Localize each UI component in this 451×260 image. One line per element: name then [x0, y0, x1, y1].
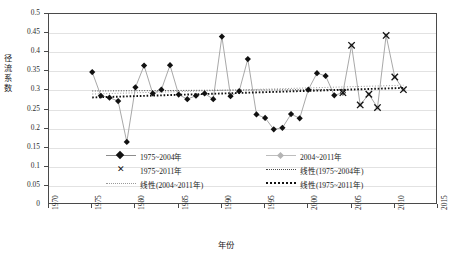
x-axis-title: 年份: [0, 238, 451, 250]
data-point-marker: [132, 84, 138, 90]
x-tick-label: 2005: [354, 195, 363, 210]
legend-item[interactable]: ✕ 1975~2011年: [106, 163, 266, 177]
x-tick-mark: [134, 204, 135, 208]
legend-label: 线性(1975~2011年): [300, 179, 363, 190]
x-tick-mark: [91, 204, 92, 208]
data-point-marker: [124, 139, 130, 145]
x-tick-label: 2010: [397, 195, 406, 210]
trend-line: [92, 85, 403, 94]
y-tick-label: 0.1: [6, 162, 40, 170]
x-tick-label: 1985: [181, 195, 190, 210]
x-tick-label: 2000: [310, 195, 319, 210]
data-point-marker: [202, 90, 208, 96]
data-point-marker: [245, 56, 251, 62]
data-point-marker: [176, 92, 182, 98]
chart-legend: 1975~2004年 2004~2011年 ✕ 1975~2011年 线性(19…: [106, 149, 406, 191]
legend-item[interactable]: 1975~2004年: [106, 149, 266, 163]
legend-key-gray-diamond-line: [266, 151, 296, 161]
legend-label: 1975~2004年: [140, 151, 182, 162]
y-tick-label: 0.3: [6, 85, 40, 93]
y-tick-label: 0.4: [6, 47, 40, 55]
data-point-marker: [106, 95, 112, 101]
y-tick-label: 0.25: [6, 105, 40, 113]
trend-line: [92, 88, 403, 98]
legend-label: 线性(1975~2004年): [300, 165, 364, 176]
data-point-marker: [305, 87, 311, 93]
x-tick-mark: [307, 204, 308, 208]
y-tick-label: 0.15: [6, 143, 40, 151]
data-point-marker: [167, 62, 173, 68]
x-tick-label: 1975: [94, 195, 103, 210]
x-tick-mark: [178, 204, 179, 208]
y-tick-label: 0.35: [6, 66, 40, 74]
legend-key-dotted-thin: [266, 165, 296, 175]
y-tick-label: 0.45: [6, 28, 40, 36]
chart-figure: 径 流 系 数 00.050.10.150.20.250.30.350.40.4…: [0, 0, 451, 260]
data-point-marker: [323, 73, 329, 79]
legend-item[interactable]: 线性(1975~2004年): [266, 163, 406, 177]
x-tick-label: 1980: [137, 195, 146, 210]
data-point-marker: [89, 69, 95, 75]
plot-area: 1975~2004年 2004~2011年 ✕ 1975~2011年 线性(19…: [48, 13, 437, 204]
data-point-marker: [288, 111, 294, 117]
data-point-marker: [253, 111, 259, 117]
legend-key-x-marker: ✕: [106, 165, 136, 175]
legend-label: 2004~2011年: [300, 151, 342, 162]
x-tick-label: 2015: [440, 195, 449, 210]
x-tick-label: 1970: [51, 195, 60, 210]
data-point-marker: [158, 87, 164, 93]
x-tick-label: 1995: [267, 195, 276, 210]
x-tick-label: 1990: [224, 195, 233, 210]
data-point-marker: [314, 70, 320, 76]
y-tick-label: 0.2: [6, 124, 40, 132]
x-tick-mark: [48, 204, 49, 208]
y-tick-label: 0: [6, 200, 40, 208]
x-tick-mark: [221, 204, 222, 208]
legend-key-dotted-bold: [266, 179, 296, 189]
legend-label: 线性(2004~2011年): [140, 179, 203, 190]
data-point-marker: [184, 96, 190, 102]
data-point-marker: [219, 33, 225, 39]
legend-key-dotted-light: [106, 179, 136, 189]
x-tick-mark: [351, 204, 352, 208]
legend-label: 1975~2011年: [140, 165, 182, 176]
data-point-marker: [297, 115, 303, 121]
x-tick-mark: [394, 204, 395, 208]
legend-item[interactable]: 2004~2011年: [266, 149, 406, 163]
y-tick-label: 0.5: [6, 9, 40, 17]
x-tick-mark: [437, 204, 438, 208]
y-tick-label: 0.05: [6, 181, 40, 189]
data-point-marker: [331, 92, 337, 98]
data-point-marker: [236, 88, 242, 94]
x-tick-mark: [264, 204, 265, 208]
data-point-marker: [115, 98, 121, 104]
data-point-marker: [279, 125, 285, 131]
data-point-marker: [141, 62, 147, 68]
legend-item[interactable]: 线性(2004~2011年): [106, 177, 266, 191]
legend-item[interactable]: 线性(1975~2011年): [266, 177, 406, 191]
data-point-marker: [210, 96, 216, 102]
legend-key-diamond-line: [106, 151, 136, 161]
